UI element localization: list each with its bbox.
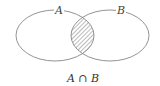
set-a-label: A — [54, 4, 63, 17]
caption: A ∩ B — [66, 72, 99, 85]
set-b-label: B — [116, 4, 125, 17]
venn-diagram: A B A ∩ B — [0, 0, 160, 86]
